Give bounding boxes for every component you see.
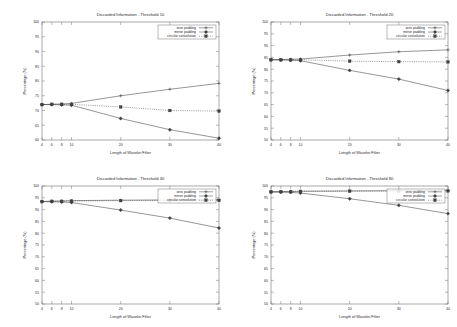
y-tick-label: 50: [35, 302, 39, 306]
y-tick-label: 50: [264, 302, 268, 306]
data-point-marker: [279, 58, 282, 61]
y-tick-label: 100: [33, 184, 39, 188]
chart-panel-4: Discarded Information - Threshold 805055…: [229, 164, 457, 327]
y-tick-label: 85: [35, 65, 39, 69]
y-tick-label: 95: [264, 196, 268, 200]
data-point-marker: [289, 58, 292, 61]
y-tick-label: 60: [35, 278, 39, 282]
plot-frame: [271, 22, 448, 140]
data-point-marker: [269, 58, 272, 61]
y-tick-label: 80: [264, 231, 268, 235]
data-point-marker: [217, 82, 220, 85]
x-tick-label: 40: [446, 307, 450, 311]
data-point-marker: [119, 208, 122, 211]
y-tick-label: 80: [264, 68, 268, 72]
data-point-marker: [397, 60, 400, 63]
y-tick-label: 90: [264, 44, 268, 48]
x-tick-label: 4: [41, 307, 43, 311]
data-point-marker: [299, 190, 302, 193]
y-tick-label: 95: [264, 32, 268, 36]
x-tick-label: 40: [446, 143, 450, 147]
series-line-mirror-padding: [42, 105, 219, 139]
plot-frame: [42, 22, 219, 140]
x-axis-label: Length of Wavelet Filter: [339, 314, 381, 319]
data-point-marker: [70, 199, 73, 202]
y-axis-label: Percentage (%): [22, 230, 27, 258]
data-point-marker: [269, 190, 272, 193]
y-tick-label: 60: [264, 278, 268, 282]
x-tick-label: 8: [61, 143, 63, 147]
y-tick-label: 90: [35, 207, 39, 211]
chart-title: Discarded Information - Threshold 40: [97, 176, 165, 181]
data-point-marker: [397, 77, 400, 80]
series-line-zero-padding: [42, 83, 219, 104]
y-tick-label: 100: [262, 20, 268, 24]
y-tick-label: 65: [264, 266, 268, 270]
y-tick-label: 70: [264, 91, 268, 95]
x-tick-label: 10: [298, 307, 302, 311]
data-point-marker: [446, 189, 449, 192]
x-tick-label: 8: [289, 143, 291, 147]
chart-panel-1: Discarded Information - Threshold 106065…: [0, 0, 228, 163]
y-tick-label: 80: [35, 231, 39, 235]
y-tick-label: 60: [264, 115, 268, 119]
y-tick-label: 100: [262, 184, 268, 188]
data-point-marker: [217, 226, 220, 229]
x-tick-label: 8: [61, 307, 63, 311]
data-point-marker: [217, 137, 220, 140]
data-point-marker: [446, 60, 449, 63]
data-point-marker: [41, 103, 44, 106]
y-tick-label: 75: [264, 79, 268, 83]
plot-frame: [271, 186, 448, 304]
data-point-marker: [41, 200, 44, 203]
y-tick-label: 95: [35, 35, 39, 39]
data-point-marker: [70, 103, 73, 106]
data-point-marker: [168, 216, 171, 219]
data-point-marker: [348, 189, 351, 192]
y-tick-label: 75: [264, 243, 268, 247]
data-point-marker: [60, 103, 63, 106]
y-tick-label: 95: [35, 196, 39, 200]
x-tick-label: 6: [51, 307, 53, 311]
data-point-marker: [347, 197, 350, 200]
x-tick-label: 40: [217, 307, 221, 311]
data-point-marker: [348, 53, 351, 56]
y-tick-label: 75: [35, 243, 39, 247]
data-point-marker: [446, 89, 449, 92]
x-tick-label: 10: [70, 307, 74, 311]
data-point-marker: [218, 198, 221, 201]
y-tick-label: 100: [33, 20, 39, 24]
chart-panel-2: Discarded Information - Threshold 205055…: [229, 0, 457, 163]
y-tick-label: 65: [35, 124, 39, 128]
y-tick-label: 90: [264, 207, 268, 211]
data-point-marker: [50, 199, 53, 202]
data-point-marker: [119, 199, 122, 202]
y-tick-label: 75: [35, 94, 39, 98]
chart-panel-3: Discarded Information - Threshold 405055…: [0, 164, 228, 327]
x-axis-label: Length of Wavelet Filter: [110, 150, 152, 155]
data-point-marker: [218, 110, 221, 113]
x-tick-label: 30: [168, 307, 172, 311]
series-line-mirror-padding: [42, 201, 219, 227]
data-point-marker: [50, 103, 53, 106]
data-point-marker: [347, 69, 350, 72]
x-tick-label: 4: [270, 143, 272, 147]
data-point-marker: [119, 94, 122, 97]
x-tick-label: 4: [41, 143, 43, 147]
legend-marker: [433, 198, 436, 201]
y-axis-label: Percentage (%): [22, 67, 27, 95]
y-tick-label: 60: [35, 138, 39, 142]
x-tick-label: 10: [298, 143, 302, 147]
legend-marker: [205, 198, 208, 201]
data-point-marker: [168, 109, 171, 112]
x-tick-label: 6: [279, 307, 281, 311]
data-point-marker: [299, 58, 302, 61]
y-axis-label: Percentage (%): [251, 230, 256, 258]
y-tick-label: 85: [264, 56, 268, 60]
data-point-marker: [119, 106, 122, 109]
y-tick-label: 85: [35, 219, 39, 223]
legend-label-circular-convolution: circular convolution: [167, 34, 196, 38]
data-point-marker: [397, 203, 400, 206]
legend-label-circular-convolution: circular convolution: [167, 198, 196, 202]
y-tick-label: 65: [264, 103, 268, 107]
